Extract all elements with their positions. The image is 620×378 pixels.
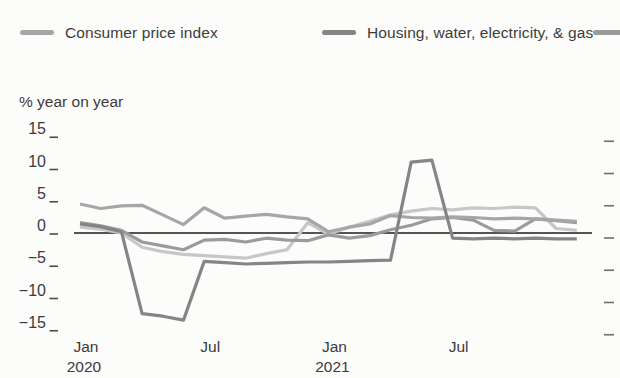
- y-axis-tick-label: −15: [19, 314, 46, 331]
- line-chart-plot: 151050−5−10−15Jan2020JulJan2021Jul: [0, 0, 620, 378]
- y-axis-tick-label: 0: [37, 217, 46, 234]
- chart-page: { "chart_data": { "type": "line", "title…: [0, 0, 620, 378]
- y-axis-tick-label: 10: [28, 153, 46, 170]
- x-axis-tick-label: Jul: [200, 338, 220, 355]
- x-axis-year-label: 2021: [315, 358, 349, 375]
- x-axis-tick-label: Jan: [322, 338, 347, 355]
- y-axis-tick-label: 5: [37, 185, 46, 202]
- x-axis-tick-label: Jan: [74, 338, 99, 355]
- x-axis-year-label: 2020: [67, 358, 102, 375]
- y-axis-tick-label: −10: [19, 282, 46, 299]
- y-axis-tick-label: −5: [28, 249, 46, 266]
- x-axis-tick-label: Jul: [449, 338, 469, 355]
- housing-line: [80, 160, 577, 320]
- y-axis-tick-label: 15: [28, 120, 46, 137]
